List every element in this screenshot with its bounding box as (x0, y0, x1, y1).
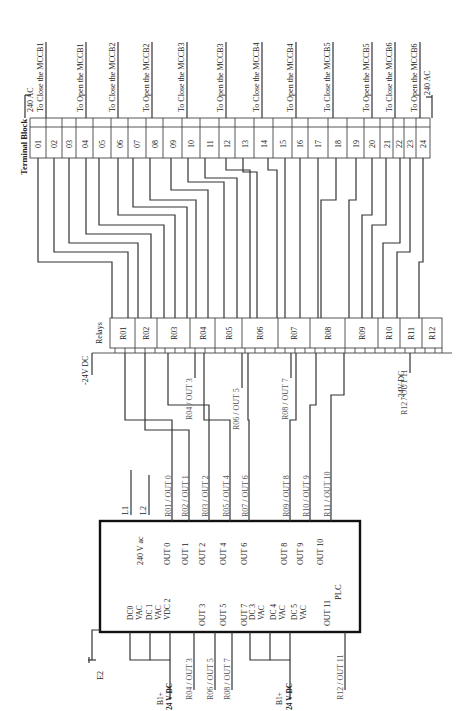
terminal-number: 06 (116, 140, 125, 148)
relay-label: R06 (256, 327, 265, 340)
plc-output-label: OUT 2 (198, 543, 207, 565)
battery-label: B1+ (156, 692, 165, 705)
plc-output-label: OUT 10 (316, 539, 325, 565)
wiring-diagram: 0102030405060708091011121314151617181920… (0, 0, 459, 711)
terminal-to-relay-wire (349, 158, 356, 318)
relay-label: R09 (358, 327, 367, 340)
relay-to-plc-wire (125, 353, 172, 440)
terminal-to-relay-wire (188, 158, 224, 318)
mccb-label: To Close the MCCB3 (177, 43, 186, 112)
terminal-number: 19 (352, 140, 361, 148)
terminal-number: 11 (206, 140, 215, 148)
terminal-number: 01 (34, 140, 43, 148)
plc-output-label: OUT 1 (181, 543, 190, 565)
relay-output-label: R08 / OUT 7 (281, 378, 290, 420)
terminal-block-title: Terminal Block (19, 119, 29, 175)
plc-common-label: DC 3 (248, 604, 257, 620)
contact-switch (150, 632, 170, 660)
terminal-number: 16 (296, 140, 305, 148)
relay-label: R11 (407, 327, 416, 340)
terminal-to-relay-wire (99, 158, 164, 318)
plc-common-label: VAC (299, 605, 308, 620)
terminal-to-relay-wire (54, 158, 128, 318)
plc-output-label: OUT 5 (219, 604, 228, 626)
terminal-number: 09 (169, 140, 178, 148)
plc-common-label: DC0 (126, 606, 135, 620)
relay-output-label: R06 / OUT 5 (206, 658, 215, 700)
plc-common-label: DC 4 (269, 604, 278, 620)
l2-label: L2 (139, 506, 148, 515)
mccb-label: To Open the MCCB6 (410, 43, 419, 112)
relay-to-plc-wire (204, 353, 230, 440)
plc-output-label: OUT 6 (240, 543, 249, 565)
relay-label: R10 (385, 327, 394, 340)
terminal-number: 07 (133, 140, 142, 148)
mccb-label: To Open the MCCB4 (286, 43, 295, 112)
plc-common-label: DC 1 (145, 604, 154, 620)
relay-label: R05 (225, 327, 234, 340)
relay-output-label: R04 / OUT 3 (185, 658, 194, 700)
ac-supply-label: 240 AC (26, 87, 35, 112)
relay-output-label: R04 / OUT 3 (185, 378, 194, 420)
contact-switch (270, 632, 290, 660)
mccb-label: To Close the MCCB1 (36, 43, 45, 112)
relay-to-plc-wire (145, 353, 189, 440)
dc-supply-left: -24V DC (81, 356, 90, 385)
relay-label: R04 (199, 327, 208, 340)
terminal-number: 13 (241, 140, 250, 148)
terminal-number: 15 (279, 140, 288, 148)
mccb-label: To Close the MCCB2 (108, 43, 117, 112)
terminal-to-relay-wire (372, 158, 386, 318)
terminal-number: 20 (368, 140, 377, 148)
relay-output-label: R12 / OUT 11 (400, 369, 409, 415)
relay-label: R07 (290, 327, 299, 340)
plc-output-label: OUT 8 (280, 543, 289, 565)
relay-label: R02 (142, 327, 151, 340)
earth-label: E2 (96, 671, 105, 680)
relay-to-plc-wire (331, 353, 344, 440)
mccb-label: To Open the MCCB2 (142, 43, 151, 112)
battery-label: B1+ (275, 692, 284, 705)
terminal-to-relay-wire (362, 158, 372, 318)
terminal-to-relay-wire (118, 158, 175, 318)
mccb-label: To Close the MCCB6 (385, 43, 394, 112)
plc-output-label: OUT 9 (296, 543, 305, 565)
terminal-number: 04 (81, 140, 90, 148)
relay-label: R01 (119, 327, 128, 340)
mccb-label: To Close the MCCB5 (323, 43, 332, 112)
relay-to-plc-wire (310, 353, 316, 440)
terminal-number: 05 (98, 140, 107, 148)
contact-switch (130, 632, 150, 660)
ac-supply-label: 240 AC (423, 70, 432, 95)
relays-title: Relays (95, 322, 104, 344)
terminal-number: 21 (383, 140, 392, 148)
terminal-number: 10 (187, 140, 196, 148)
terminal-number: 24 (419, 140, 428, 148)
mccb-label: To Close the MCCB4 (252, 43, 261, 112)
relay-label: R12 (428, 327, 437, 340)
terminal-to-relay-wire (321, 158, 336, 318)
contact-switch (250, 632, 270, 660)
terminal-to-relay-wire (133, 158, 187, 318)
mccb-label: To Open the MCCB1 (76, 43, 85, 112)
battery-label: 24 V DC (285, 683, 294, 710)
plc-output-label: OUT 0 (163, 543, 172, 565)
terminal-to-relay-wire (397, 158, 410, 318)
relay-to-plc-wire (248, 353, 249, 440)
l1-label: L1 (121, 506, 130, 515)
terminal-number: 12 (223, 140, 232, 148)
terminal-to-relay-wire (419, 158, 423, 318)
plc-common-label: VAC (278, 605, 287, 620)
terminal-number: 14 (260, 140, 269, 148)
mccb-label: To Open the MCCB3 (216, 43, 225, 112)
plc-output-label: OUT 4 (219, 543, 228, 565)
terminal-number: 18 (334, 140, 343, 148)
plc-supply-label: 240 V ac (136, 536, 145, 565)
mccb-label: To Open the MCCB5 (362, 43, 371, 112)
relay-output-label: R08 / OUT 7 (223, 658, 232, 700)
relay-output-label: R06 / OUT 5 (232, 388, 241, 430)
terminal-number: 22 (395, 140, 404, 148)
terminal-number: 17 (314, 140, 323, 148)
terminal-to-relay-wire (38, 158, 112, 318)
terminal-number: 02 (50, 140, 59, 148)
